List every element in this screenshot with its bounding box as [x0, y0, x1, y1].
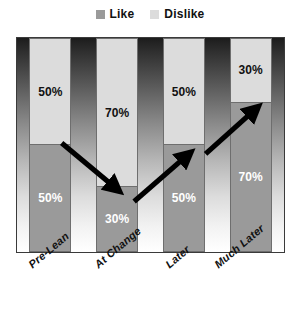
bar-value-label-like: 50%	[172, 192, 196, 204]
bar-at-change: 70% 30%	[96, 38, 138, 252]
bar-value-label-dislike: 70%	[105, 107, 129, 119]
bars-container: 50% 50% 70% 30% 50% 50%	[17, 38, 284, 252]
bar-value-label-like: 30%	[105, 213, 129, 225]
bar-segment-like: 50%	[164, 145, 204, 251]
bar-segment-dislike: 30%	[231, 39, 271, 103]
bar-value-label-dislike: 50%	[38, 86, 62, 98]
bar-much-later: 30% 70%	[230, 38, 272, 252]
legend-swatch-dislike	[150, 10, 159, 19]
plot-area: 50% 50% 70% 30% 50% 50%	[16, 37, 285, 253]
bar-pre-lean: 50% 50%	[29, 38, 71, 252]
bar-segment-dislike: 70%	[97, 39, 137, 187]
legend-item-dislike: Dislike	[150, 8, 204, 20]
legend-swatch-like	[96, 10, 105, 19]
bar-value-label-dislike: 30%	[239, 64, 263, 76]
bar-value-label-like: 70%	[239, 171, 263, 183]
legend-item-like: Like	[96, 8, 135, 20]
bar-value-label-like: 50%	[38, 192, 62, 204]
category-axis: Pre-Lean At Change Later Much Later	[16, 253, 285, 326]
chart-legend: Like Dislike	[0, 8, 300, 20]
legend-label-like: Like	[110, 8, 135, 20]
bar-later: 50% 50%	[163, 38, 205, 252]
bar-value-label-dislike: 50%	[172, 86, 196, 98]
stacked-bar-chart: Like Dislike 50% 50% 70%	[0, 0, 300, 326]
legend-label-dislike: Dislike	[164, 8, 204, 20]
bar-segment-dislike: 50%	[30, 39, 70, 145]
bar-segment-dislike: 50%	[164, 39, 204, 145]
